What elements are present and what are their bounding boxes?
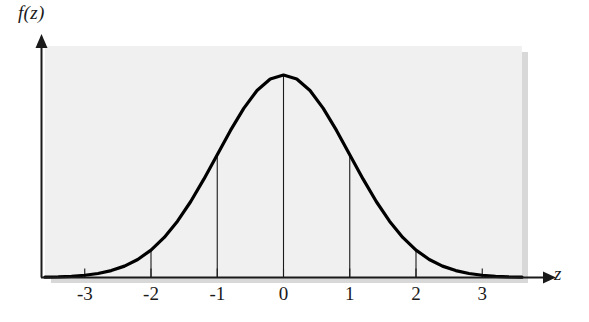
normal-curve-plot (0, 0, 589, 322)
x-tick-label-0: 0 (264, 283, 304, 305)
figure-container: f(z) z -3-2-10123 (0, 0, 589, 322)
y-axis-arrowhead (36, 34, 48, 48)
x-axis-label: z (554, 263, 561, 285)
x-tick-label--2: -2 (131, 283, 171, 305)
x-tick-label-3: 3 (462, 283, 502, 305)
x-tick-label--3: -3 (65, 283, 105, 305)
y-axis-label: f(z) (18, 2, 45, 24)
x-tick-label--1: -1 (197, 283, 237, 305)
x-tick-label-2: 2 (396, 283, 436, 305)
x-tick-label-1: 1 (330, 283, 370, 305)
